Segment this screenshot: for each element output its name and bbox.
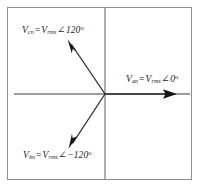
label-vcn: Vcn=Vrms∠120o bbox=[22, 25, 84, 36]
label-vbn-degree: o bbox=[88, 149, 91, 156]
label-vbn-equals: = bbox=[35, 150, 42, 160]
angle-icon: ∠ bbox=[56, 24, 65, 35]
label-van-magnitude-subscript: rms bbox=[151, 77, 160, 84]
label-van: Van=Vrms∠0o bbox=[126, 74, 178, 85]
label-vcn-subscript: cn bbox=[28, 28, 34, 35]
angle-icon: ∠ bbox=[161, 73, 170, 84]
phasor-vcn-shaft bbox=[72, 45, 106, 95]
label-van-degree: o bbox=[175, 73, 178, 80]
phasor-diagram-figure: Vcn=Vrms∠120o Van=Vrms∠0o Vbn=Vrms∠−120o bbox=[0, 0, 201, 193]
angle-icon: ∠ bbox=[58, 149, 67, 160]
label-vbn: Vbn=Vrms∠−120o bbox=[23, 150, 92, 161]
phasor-vbn-shaft bbox=[73, 94, 106, 144]
label-vbn-angle-value: −120 bbox=[67, 150, 88, 160]
phasor-van bbox=[105, 89, 177, 99]
phasor-vbn bbox=[69, 94, 105, 149]
phasor-vcn-arrowhead bbox=[68, 39, 77, 53]
phasor-vbn-arrowhead bbox=[69, 133, 77, 148]
phasor-vcn bbox=[68, 39, 105, 94]
label-van-equals: = bbox=[138, 74, 145, 84]
label-vcn-degree: o bbox=[80, 24, 83, 31]
label-vbn-magnitude-subscript: rms bbox=[48, 153, 57, 160]
label-vcn-angle-value: 120 bbox=[66, 25, 81, 35]
